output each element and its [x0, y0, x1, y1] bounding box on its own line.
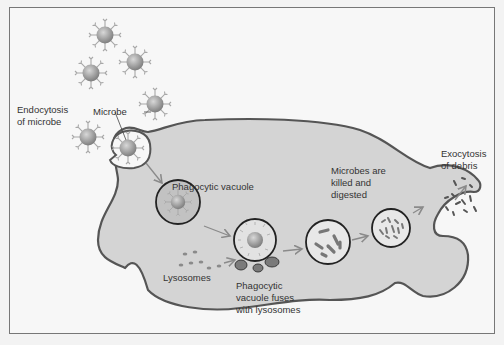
- digested-vacuole: [372, 209, 410, 247]
- fused-vacuole: [234, 219, 279, 272]
- label-microbe: Microbe: [93, 106, 127, 118]
- digesting-vacuole: [306, 220, 350, 264]
- label-exocytosis: Exocytosis of debris: [441, 148, 486, 172]
- label-lysosomes: Lysosomes: [163, 272, 211, 284]
- label-fuses: Phagocytic vacuole fuses with lysosomes: [236, 280, 300, 316]
- label-killed-digested: Microbes are killed and digested: [331, 165, 386, 201]
- label-endocytosis: Endocytosis of microbe: [17, 104, 68, 128]
- label-phagocytic-vacuole: Phagocytic vacuole: [172, 181, 254, 193]
